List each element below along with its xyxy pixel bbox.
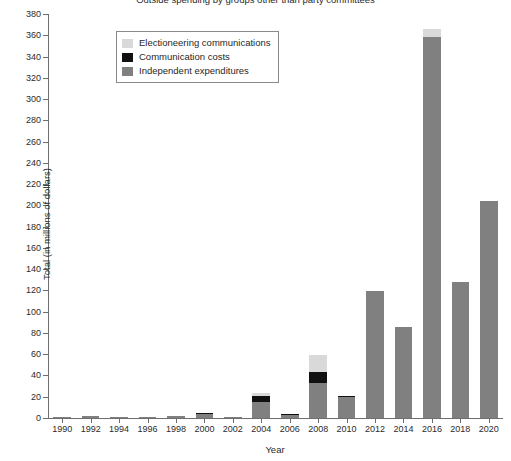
- bar-segment[interactable]: [309, 372, 327, 383]
- bar-segment[interactable]: [452, 282, 470, 418]
- bar-segment[interactable]: [53, 417, 71, 418]
- bar-segment[interactable]: [110, 417, 128, 418]
- bar-segment[interactable]: [167, 416, 185, 418]
- bar-segment[interactable]: [309, 355, 327, 372]
- x-tick-label: 1990: [52, 425, 72, 434]
- x-tick: [489, 418, 490, 423]
- x-tick-label: 1992: [81, 425, 101, 434]
- plot-area: 0204060801001201401601802002202402602803…: [48, 14, 503, 418]
- chart-title: Outside spending by groups other than pa…: [0, 0, 511, 5]
- bar-group[interactable]: [423, 14, 441, 418]
- y-tick-label: 80: [31, 328, 41, 337]
- y-tick-label: 200: [26, 201, 41, 210]
- legend-item-label: Electioneering communications: [139, 38, 270, 48]
- x-tick: [347, 418, 348, 423]
- x-tick-label: 2014: [393, 425, 413, 434]
- bar-segment[interactable]: [366, 291, 384, 418]
- y-tick: [43, 418, 48, 419]
- y-tick-label: 40: [31, 371, 41, 380]
- x-tick-label: 2002: [223, 425, 243, 434]
- y-tick-label: 360: [26, 31, 41, 40]
- x-tick: [233, 418, 234, 423]
- bar-segment[interactable]: [252, 393, 270, 396]
- y-tick-label: 340: [26, 52, 41, 61]
- bar-segment[interactable]: [281, 414, 299, 415]
- bar-segment[interactable]: [338, 396, 356, 397]
- chart-container: Outside spending by groups other than pa…: [0, 0, 511, 461]
- bar-group[interactable]: [452, 14, 470, 418]
- legend-item[interactable]: Electioneering communications: [122, 36, 270, 50]
- x-tick: [318, 418, 319, 423]
- x-tick: [290, 418, 291, 423]
- y-tick-label: 280: [26, 116, 41, 125]
- bar-segment[interactable]: [82, 416, 100, 418]
- bar-group[interactable]: [366, 14, 384, 418]
- bar-segment[interactable]: [395, 327, 413, 418]
- x-tick-label: 2000: [194, 425, 214, 434]
- legend-item-label: Communication costs: [139, 52, 230, 62]
- x-tick-label: 2010: [337, 425, 357, 434]
- bar-segment[interactable]: [480, 201, 498, 418]
- legend-item[interactable]: Independent expenditures: [122, 64, 270, 78]
- x-tick-label: 2018: [450, 425, 470, 434]
- legend-swatch-icon: [122, 39, 133, 48]
- x-tick-label: 2004: [251, 425, 271, 434]
- x-tick-label: 1998: [166, 425, 186, 434]
- y-tick-label: 20: [31, 392, 41, 401]
- bar-group[interactable]: [53, 14, 71, 418]
- y-tick-label: 300: [26, 95, 41, 104]
- y-tick-label: 260: [26, 137, 41, 146]
- bar-segment[interactable]: [252, 402, 270, 418]
- x-tick: [432, 418, 433, 423]
- bar-segment[interactable]: [423, 37, 441, 418]
- x-axis-line: [48, 418, 503, 419]
- x-tick: [460, 418, 461, 423]
- y-axis-title: Total (in millions of dollars): [41, 168, 52, 280]
- legend-item-label: Independent expenditures: [139, 66, 249, 76]
- x-tick-label: 2012: [365, 425, 385, 434]
- x-tick-label: 1994: [109, 425, 129, 434]
- y-tick-label: 140: [26, 265, 41, 274]
- bar-segment[interactable]: [423, 29, 441, 38]
- x-tick: [62, 418, 63, 423]
- x-tick-label: 2016: [422, 425, 442, 434]
- x-tick: [403, 418, 404, 423]
- y-tick-label: 0: [36, 414, 41, 423]
- bar-segment[interactable]: [224, 417, 242, 418]
- x-tick: [176, 418, 177, 423]
- x-tick-label: 2020: [479, 425, 499, 434]
- legend-swatch-icon: [122, 67, 133, 76]
- y-tick-label: 180: [26, 222, 41, 231]
- bar-group[interactable]: [338, 14, 356, 418]
- y-tick-label: 380: [26, 10, 41, 19]
- legend-item[interactable]: Communication costs: [122, 50, 270, 64]
- bar-segment[interactable]: [196, 414, 214, 418]
- bar-group[interactable]: [82, 14, 100, 418]
- legend-swatch-icon: [122, 53, 133, 62]
- x-tick: [148, 418, 149, 423]
- x-tick: [261, 418, 262, 423]
- x-tick: [91, 418, 92, 423]
- y-tick-label: 120: [26, 286, 41, 295]
- bar-group[interactable]: [309, 14, 327, 418]
- bar-segment[interactable]: [309, 383, 327, 418]
- bar-segment[interactable]: [196, 413, 214, 414]
- bar-segment[interactable]: [281, 415, 299, 418]
- x-tick: [204, 418, 205, 423]
- y-tick-label: 220: [26, 180, 41, 189]
- chart-legend: Electioneering communicationsCommunicati…: [116, 31, 279, 83]
- x-tick: [119, 418, 120, 423]
- bar-segment[interactable]: [338, 397, 356, 418]
- x-tick-label: 1996: [138, 425, 158, 434]
- x-axis-title: Year: [265, 444, 284, 455]
- bar-group[interactable]: [395, 14, 413, 418]
- y-tick-label: 240: [26, 158, 41, 167]
- bar-group[interactable]: [281, 14, 299, 418]
- bar-segment[interactable]: [139, 417, 157, 418]
- y-tick-label: 100: [26, 307, 41, 316]
- bar-segment[interactable]: [252, 396, 270, 402]
- x-tick: [375, 418, 376, 423]
- x-tick-label: 2008: [308, 425, 328, 434]
- bar-group[interactable]: [480, 14, 498, 418]
- y-tick-label: 160: [26, 243, 41, 252]
